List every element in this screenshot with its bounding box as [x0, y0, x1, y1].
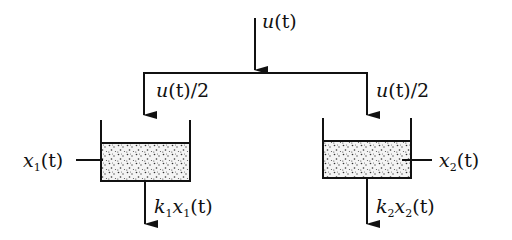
tank-1 [101, 120, 190, 181]
branch-label-left: u(t)/2 [156, 79, 209, 101]
branch-label-right: u(t)/2 [376, 79, 429, 101]
tank-2-outflow-label: k2x2(t) [376, 195, 435, 220]
tank-2-level-label: x2(t) [439, 149, 479, 174]
tank-2 [323, 118, 411, 178]
tank-2-fluid [323, 141, 411, 178]
two-tank-diagram: u(t) u(t)/2 u(t)/2 x1(t) k1x1(t) x2(t) k… [0, 0, 512, 240]
input-label: u(t) [262, 10, 297, 32]
tank-1-outflow-label: k1x1(t) [154, 195, 213, 220]
tank-1-fluid [101, 143, 190, 180]
tank-1-level-label: x1(t) [23, 149, 63, 174]
